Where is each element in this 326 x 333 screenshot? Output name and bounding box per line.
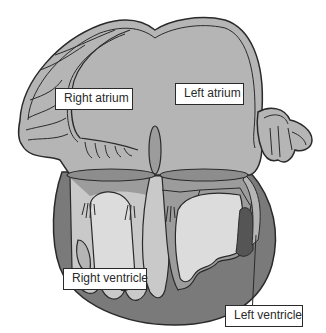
- tricuspid-valve-ring: [67, 169, 155, 181]
- heart-diagram: [0, 0, 326, 333]
- label-left-ventricle: Left ventricle: [225, 305, 303, 327]
- label-right-atrium: Right atrium: [55, 88, 133, 110]
- left-atrial-appendage: [257, 108, 312, 162]
- label-left-atrium: Left atrium: [175, 83, 244, 105]
- interatrial-septum: [149, 126, 161, 174]
- label-right-ventricle: Right ventricle: [63, 268, 147, 290]
- mitral-valve-ring: [160, 169, 248, 181]
